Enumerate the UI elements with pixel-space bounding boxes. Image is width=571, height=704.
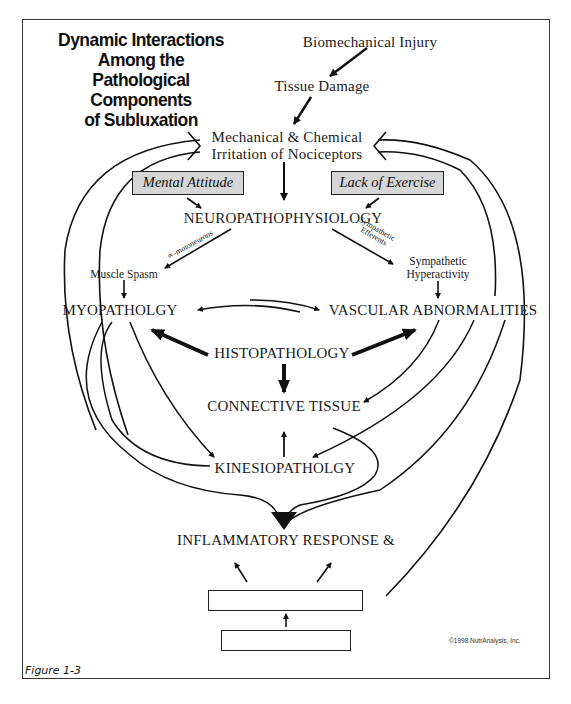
- irritation-line-1: Mechanical & Chemical: [212, 129, 363, 146]
- copyright-notice: ©1998 NutrAnalysis, Inc.: [449, 637, 521, 644]
- node-kinesiopathology: KINESIOPATHOLGY: [215, 460, 356, 477]
- arrowhead-left-irritation: [188, 132, 200, 160]
- node-sympathetic-hyperactivity: Sympathetic Hyperactivity: [406, 255, 469, 281]
- figure-label: Figure 1-3: [25, 664, 81, 677]
- node-connective-tissue: CONNECTIVE TISSUE: [207, 398, 361, 415]
- irritation-line-2: Irritation of Nociceptors: [212, 146, 363, 163]
- node-irritation-nociceptors: Mechanical & Chemical Irritation of Noci…: [212, 129, 363, 163]
- arrow-histo-to-vascular: [352, 330, 415, 355]
- node-neuropathophysiology: NEUROPATHOPHYSIOLOGY: [184, 210, 382, 227]
- node-myopathology: MYOPATHOLGY: [63, 302, 178, 319]
- arrow-damage-to-irritation: [294, 97, 311, 124]
- node-lack-of-exercise: Lack of Exercise: [331, 171, 444, 195]
- node-inflammatory-response: INFLAMMATORY RESPONSE &: [177, 532, 395, 549]
- node-mental-attitude: Mental Attitude: [132, 171, 244, 195]
- arrow-vascular-myo: [198, 305, 300, 312]
- arrow-myo-to-kinesio: [130, 322, 214, 457]
- node-muscle-spasm: Muscle Spasm: [90, 268, 157, 281]
- node-vascular-abnormalities: VASCULAR ABNORMALITIES: [329, 302, 538, 319]
- arrow-injury-to-damage: [330, 48, 367, 76]
- empty-box-upper: [208, 590, 363, 611]
- arrow-exercise-to-neuro: [366, 198, 379, 208]
- arrow-mental-to-neuro: [187, 198, 201, 208]
- arrowhead-right-irritation: [374, 132, 386, 160]
- arrow-upper-box-right: [317, 563, 331, 582]
- arrow-histo-to-myo: [152, 330, 208, 355]
- diagram-canvas: Dynamic Interactions Among the Pathologi…: [0, 0, 571, 704]
- node-histopathology: HISTOPATHOLOGY: [214, 345, 349, 362]
- node-biomechanical-injury: Biomechanical Injury: [303, 34, 437, 51]
- arrow-upper-box-left: [235, 563, 247, 582]
- node-tissue-damage: Tissue Damage: [275, 78, 370, 95]
- curve-right-feedback: [378, 140, 524, 596]
- arrow-vascular-to-connective: [364, 320, 439, 402]
- empty-box-lower: [221, 630, 351, 651]
- arrow-inflammatory-head: [271, 512, 297, 530]
